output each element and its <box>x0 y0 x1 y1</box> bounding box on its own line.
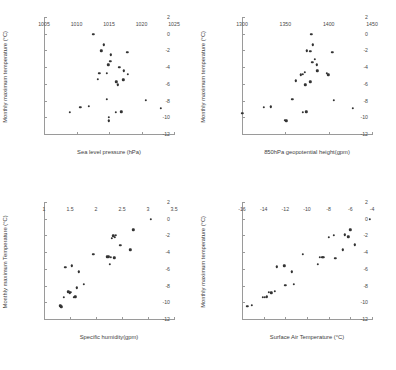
x-tick-3-5 <box>350 317 351 320</box>
y-tick-2-5 <box>44 286 47 287</box>
y-tick-label-3-5: -8 <box>363 284 368 289</box>
y-tick-1-5 <box>242 101 245 102</box>
y-tick-label-2-3: -4 <box>165 251 170 256</box>
data-point <box>327 236 329 238</box>
figure-panel-grid: Monthly maximum temperature (°C) Sea lev… <box>0 0 396 370</box>
x-tick-label-0-1: 1010 <box>71 22 83 27</box>
y-axis-title-1: Monthly maximum temperature (°C) <box>198 18 210 135</box>
data-point <box>301 253 303 255</box>
y-tick-label-2-5: -8 <box>165 284 170 289</box>
y-tick-label-1-2: -2 <box>363 49 368 54</box>
y-tick-0-1 <box>44 34 47 35</box>
y-tick-label-1-5: -8 <box>363 99 368 104</box>
y-tick-0-0 <box>44 17 47 18</box>
data-point <box>306 49 308 51</box>
data-point <box>64 266 66 268</box>
data-point <box>97 78 99 80</box>
y-tick-label-3-6: -10 <box>361 301 369 306</box>
data-point <box>246 305 248 307</box>
data-point <box>145 99 147 101</box>
y-tick-label-1-6: -10 <box>361 116 369 121</box>
data-point <box>110 237 112 239</box>
x-tick-1-1 <box>285 132 286 135</box>
data-point <box>109 256 111 258</box>
data-point <box>110 54 112 56</box>
data-point <box>311 61 313 63</box>
data-point <box>304 71 306 73</box>
y-tick-label-0-2: -2 <box>165 49 170 54</box>
scatter-panel-top-right: Monthly maximum temperature (°C) 850hPa … <box>198 0 396 185</box>
y-tick-label-3-4: -6 <box>363 267 368 272</box>
data-point <box>120 110 122 112</box>
x-tick-label-3-2: -12 <box>282 207 290 212</box>
x-tick-2-2 <box>96 317 97 320</box>
y-tick-label-3-3: -4 <box>363 251 368 256</box>
data-point <box>284 284 286 286</box>
data-point <box>349 229 351 231</box>
y-tick-0-5 <box>44 101 47 102</box>
y-tick-label-3-2: -2 <box>363 234 368 239</box>
y-tick-label-0-1: 0 <box>167 32 170 37</box>
x-tick-label-2-2: 2 <box>95 207 98 212</box>
x-tick-label-1-3: 1450 <box>366 22 378 27</box>
y-tick-2-2 <box>44 235 47 236</box>
y-axis-title-0: Monthly maximum temperature (°C) <box>0 18 12 135</box>
data-point <box>327 74 329 76</box>
data-point <box>342 249 344 251</box>
x-tick-2-4 <box>148 317 149 320</box>
x-tick-2-3 <box>122 317 123 320</box>
y-tick-label-0-3: -4 <box>165 66 170 71</box>
data-point <box>160 107 162 109</box>
data-point <box>285 120 287 122</box>
data-point <box>119 244 121 246</box>
y-tick-3-7 <box>242 319 245 320</box>
data-point <box>100 49 102 51</box>
data-point <box>83 283 85 285</box>
data-point <box>78 270 80 272</box>
y-tick-3-3 <box>242 252 245 253</box>
x-tick-label-0-2: 1015 <box>103 22 115 27</box>
y-tick-label-0-7: -12 <box>163 132 171 137</box>
data-point <box>108 120 110 122</box>
scatter-panel-top-left: Monthly maximum temperature (°C) Sea lev… <box>0 0 198 185</box>
y-tick-2-0 <box>44 202 47 203</box>
data-point <box>369 218 371 220</box>
scatter-panel-bottom-right: Monthly maximum temperature (°C) Surface… <box>198 185 396 370</box>
data-point <box>69 111 71 113</box>
y-tick-label-1-4: -6 <box>363 82 368 87</box>
x-tick-label-3-6: -4 <box>370 207 375 212</box>
data-point <box>109 60 111 62</box>
data-point <box>79 106 81 108</box>
data-point <box>114 236 116 238</box>
x-tick-0-3 <box>142 132 143 135</box>
x-tick-3-2 <box>285 317 286 320</box>
y-tick-1-4 <box>242 84 245 85</box>
y-tick-2-1 <box>44 219 47 220</box>
data-point <box>302 73 304 75</box>
data-point <box>129 249 131 251</box>
x-axis-line-2 <box>44 319 174 320</box>
data-point <box>127 73 129 75</box>
x-axis-title-2: Specific humidity(gpm) <box>44 335 174 341</box>
data-point <box>126 51 128 53</box>
x-tick-3-1 <box>264 317 265 320</box>
data-point <box>109 263 111 265</box>
data-point <box>103 44 105 46</box>
data-point <box>269 105 271 107</box>
y-tick-label-3-0: 2 <box>365 200 368 205</box>
plot-area-0: 1005101010151020102520-2-4-6-8-10-12 <box>44 18 174 135</box>
y-tick-label-2-7: -12 <box>163 317 171 322</box>
x-tick-label-2-3: 2.5 <box>118 207 125 212</box>
data-point <box>283 264 285 266</box>
data-point <box>115 80 117 82</box>
plot-area-2: 11.522.533.520-2-4-6-8-10-12 <box>44 203 174 320</box>
x-tick-label-2-4: 3 <box>147 207 150 212</box>
x-tick-label-2-1: 1.5 <box>66 207 73 212</box>
data-point <box>107 64 109 66</box>
y-tick-1-2 <box>242 50 245 51</box>
y-tick-3-6 <box>242 302 245 303</box>
y-tick-label-3-1: 0 <box>365 217 368 222</box>
y-tick-label-0-6: -10 <box>163 116 171 121</box>
data-point <box>310 33 312 35</box>
data-point <box>117 84 119 86</box>
